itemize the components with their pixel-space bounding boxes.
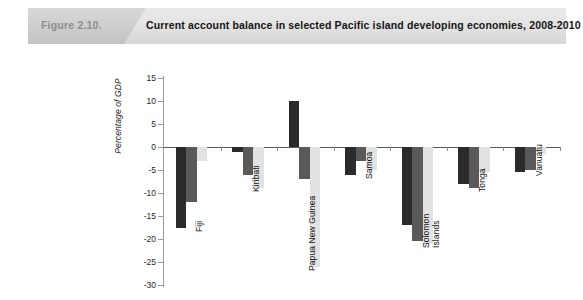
category-label: Vanuatu (535, 145, 545, 177)
x-tick-mark (221, 147, 222, 151)
bar-2008[interactable] (458, 147, 469, 184)
y-tick-mark (158, 124, 163, 125)
y-tick-mark (158, 216, 163, 217)
figure-number: Figure 2.10. (41, 19, 102, 31)
category-label: Fiji (195, 220, 205, 231)
bar-2010[interactable] (197, 147, 208, 161)
category-label: Papua New Guinea (308, 195, 318, 270)
y-tick-label: 5 (151, 119, 156, 129)
category-label: Tonga (478, 169, 488, 193)
y-tick-label: -10 (144, 188, 156, 198)
chart-region: Percentage of GDP 151050-5-10-15-20-25-3… (0, 48, 583, 300)
y-tick-label: -20 (144, 234, 156, 244)
x-tick-mark (447, 147, 448, 151)
figure-header: Figure 2.10. Current account balance in … (28, 8, 566, 44)
bar-2008[interactable] (345, 147, 356, 175)
x-tick-mark (503, 147, 504, 151)
y-tick-label: 0 (151, 142, 156, 152)
x-tick-mark (390, 147, 391, 151)
bar-group (345, 78, 377, 285)
y-tick-mark (158, 239, 163, 240)
y-tick-label: -25 (144, 257, 156, 267)
y-tick-label: -15 (144, 211, 156, 221)
y-tick-mark (158, 285, 163, 286)
category-label: Kiribati (252, 166, 262, 193)
y-tick-mark (158, 170, 163, 171)
x-tick-mark (560, 147, 561, 151)
category-label: SolomonIslands (422, 213, 441, 247)
bar-group (176, 78, 208, 285)
y-tick-mark (158, 101, 163, 102)
y-tick-label: -5 (148, 165, 156, 175)
y-tick-mark (158, 193, 163, 194)
category-label: Samoa (365, 151, 375, 178)
bar-2009[interactable] (186, 147, 197, 202)
y-tick-label: -30 (144, 280, 156, 290)
y-tick-mark (158, 78, 163, 79)
bar-2009[interactable] (299, 147, 310, 179)
y-axis-title: Percentage of GDP (113, 66, 123, 166)
y-tick-label: 15 (147, 73, 156, 83)
bar-2008[interactable] (289, 101, 300, 147)
bar-group (515, 78, 547, 285)
y-axis-tick-labels: 151050-5-10-15-20-25-30 (126, 78, 156, 285)
figure-title: Current account balance in selected Paci… (146, 19, 564, 31)
bar-group (402, 78, 434, 285)
y-tick-label: 10 (147, 96, 156, 106)
bar-2008[interactable] (176, 147, 187, 228)
x-tick-mark (277, 147, 278, 151)
plot-area: FijiKiribatiPapua New GuineaSamoaSolomon… (164, 78, 560, 285)
x-tick-mark (334, 147, 335, 151)
y-tick-mark (158, 262, 163, 263)
y-tick-mark (158, 147, 163, 148)
bar-2008[interactable] (402, 147, 413, 225)
bar-2008[interactable] (232, 147, 243, 152)
bar-2008[interactable] (515, 147, 526, 172)
